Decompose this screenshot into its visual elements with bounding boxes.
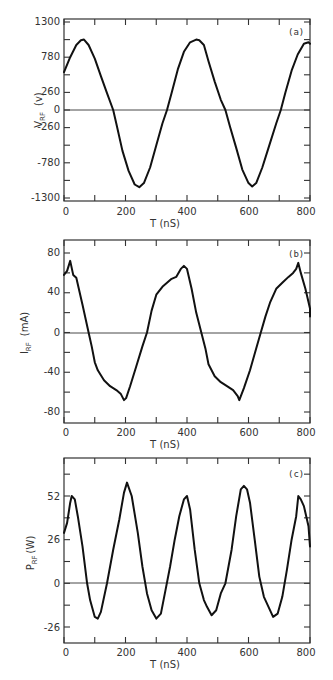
ytick-label: -26 bbox=[44, 622, 60, 633]
xtick-label: 0 bbox=[63, 647, 69, 658]
axis-ticks bbox=[64, 240, 310, 423]
y-axis-title: PRF(W) bbox=[25, 536, 39, 571]
ytick-label: 0 bbox=[54, 578, 60, 589]
panel-tag: (c) bbox=[288, 469, 304, 479]
x-axis-title: T (nS) bbox=[149, 659, 180, 670]
ylabel-unit: (v) bbox=[33, 92, 44, 106]
xtick-label: 200 bbox=[116, 647, 135, 658]
ylabel-unit: (mA) bbox=[19, 312, 30, 336]
ytick-label: 80 bbox=[47, 247, 60, 258]
voltage-trace bbox=[64, 40, 310, 188]
xtick-label: 400 bbox=[177, 427, 196, 438]
xtick-label: 0 bbox=[63, 206, 69, 217]
ylabel-sub: RF bbox=[31, 555, 39, 564]
svg-text:IRF(mA): IRF(mA) bbox=[19, 312, 33, 354]
ytick-label: -780 bbox=[37, 157, 60, 168]
ytick-label: -40 bbox=[44, 366, 60, 377]
panel-tag: (b) bbox=[288, 249, 304, 259]
ytick-label: -80 bbox=[44, 406, 60, 417]
ytick-label: 40 bbox=[47, 286, 60, 297]
ytick-label: 52 bbox=[47, 491, 60, 502]
xtick-label: 800 bbox=[296, 206, 315, 217]
x-axis-title: T (nS) bbox=[149, 439, 180, 450]
ytick-label: 0 bbox=[54, 327, 60, 338]
xtick-label: 400 bbox=[177, 647, 196, 658]
y-axis-title: IRF(mA) bbox=[19, 312, 33, 354]
figure: (a) 1300 780 260 0 -260 -780 -1300 0 200… bbox=[0, 0, 333, 680]
svg-text:PRF(W): PRF(W) bbox=[25, 536, 39, 571]
xtick-label: 400 bbox=[177, 206, 196, 217]
ylabel-sub: RF bbox=[39, 112, 47, 121]
ytick-label: 26 bbox=[47, 534, 60, 545]
ylabel-unit: (W) bbox=[25, 536, 36, 554]
xtick-label: 200 bbox=[116, 206, 135, 217]
plot-frame bbox=[64, 240, 310, 423]
xtick-label: 0 bbox=[63, 427, 69, 438]
panel-b: (b) 80 40 0 -40 -80 0 200 400 600 800 T … bbox=[19, 240, 316, 450]
panel-a: (a) 1300 780 260 0 -260 -780 -1300 0 200… bbox=[31, 16, 316, 229]
panel-c: (c) 52 26 0 -26 0 200 400 600 800 T (nS)… bbox=[25, 458, 316, 670]
ytick-label: -1300 bbox=[31, 192, 60, 203]
ytick-label: 780 bbox=[41, 51, 60, 62]
ylabel-sub: RF bbox=[25, 342, 33, 351]
xtick-label: 600 bbox=[239, 206, 258, 217]
power-trace bbox=[64, 483, 310, 619]
panel-tag: (a) bbox=[288, 27, 304, 37]
ytick-label: 1300 bbox=[35, 16, 60, 27]
xtick-label: 600 bbox=[239, 647, 258, 658]
x-axis-title: T (nS) bbox=[149, 218, 180, 229]
xtick-label: 600 bbox=[239, 427, 258, 438]
current-trace bbox=[64, 261, 310, 400]
ytick-label: 0 bbox=[54, 104, 60, 115]
xtick-label: 200 bbox=[116, 427, 135, 438]
xtick-label: 800 bbox=[296, 647, 315, 658]
xtick-label: 800 bbox=[296, 427, 315, 438]
